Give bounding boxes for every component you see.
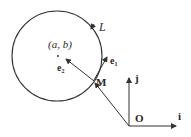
center-point bbox=[57, 55, 59, 57]
position-vector-OM bbox=[95, 83, 129, 126]
normal-label: e2 bbox=[57, 62, 64, 74]
diagram-canvas: L (a, b) M O i j e1 e2 bbox=[0, 0, 191, 137]
tangent-label: e1 bbox=[110, 55, 117, 67]
point-label: M bbox=[96, 76, 107, 88]
normal-vector-e2 bbox=[66, 59, 94, 81]
center-label: (a, b) bbox=[48, 38, 72, 51]
curve-label: L bbox=[98, 20, 106, 34]
unit-x-label: i bbox=[178, 110, 181, 122]
origin-label: O bbox=[135, 112, 144, 124]
unit-y-label: j bbox=[134, 72, 139, 84]
